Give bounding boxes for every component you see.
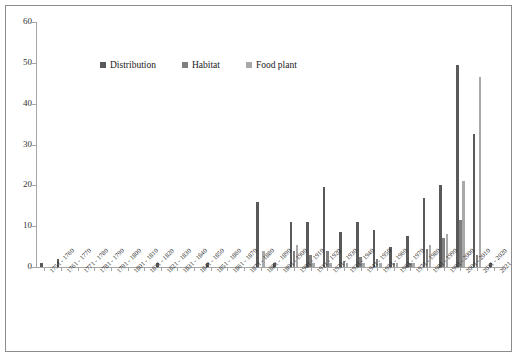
y-axis-tick-label: 0 [2, 262, 32, 271]
x-axis-tick-label: 1851 - 1860 [215, 269, 220, 274]
x-axis-tick-label: 1971 - 1980 [414, 269, 419, 274]
bar-group [40, 22, 49, 267]
bar-group [423, 22, 432, 267]
bar-group [456, 22, 465, 267]
bar-group [389, 22, 398, 267]
bar-group [73, 22, 82, 267]
x-axis-tick-label: 1931 - 1940 [348, 269, 353, 274]
y-axis-tick-label: 10 [2, 221, 32, 230]
x-axis-labels: 1751 - 17601761 - 17701771 - 17801781 - … [36, 269, 506, 355]
legend-label: Habitat [192, 60, 220, 70]
x-axis-tick-label: 1951 - 1960 [381, 269, 386, 274]
chart-legend: DistributionHabitatFood plant [100, 58, 370, 72]
bar-group [90, 22, 99, 267]
legend-swatch-icon [246, 62, 252, 68]
x-axis-tick-label: 1961 - 1970 [398, 269, 403, 274]
bar-group [439, 22, 448, 267]
x-axis-tick-label: 1841 - 1850 [198, 269, 203, 274]
x-axis-tick-label: 1941 - 1950 [365, 269, 370, 274]
x-axis-tick-label: 1821 - 1830 [165, 269, 170, 274]
x-axis-tick-label: 1981 - 1990 [431, 269, 436, 274]
x-axis-tick-label: 2001 - 2010 [464, 269, 469, 274]
y-axis-tick-label: 50 [2, 58, 32, 67]
y-axis-tick-label: 20 [2, 180, 32, 189]
x-axis-tick-label: 1901 - 1910 [298, 269, 303, 274]
x-axis-tick-label: 1911 - 1920 [315, 269, 320, 274]
x-axis-tick-label: 1921 - 1930 [331, 269, 336, 274]
bar-group [373, 22, 382, 267]
x-axis-tick-label: 1811 - 1820 [148, 269, 153, 274]
x-axis-tick-label: 1881 - 1890 [265, 269, 270, 274]
bar-group [57, 22, 66, 267]
legend-item: Food plant [246, 60, 297, 70]
x-axis-tick-label: 1751 - 1760 [48, 269, 53, 274]
x-axis-tick-label: 2021 [498, 269, 503, 274]
x-axis-tick-label: 1991 - 2000 [448, 269, 453, 274]
x-axis-tick-label: 2011 - 2020 [481, 269, 486, 274]
bar-group [489, 22, 498, 267]
legend-label: Food plant [256, 60, 297, 70]
x-axis-tick-label: 1861 - 1870 [231, 269, 236, 274]
x-axis-tick-label: 1831 - 1840 [181, 269, 186, 274]
chart-figure: 0102030405060 1751 - 17601761 - 17701771… [0, 0, 518, 358]
x-axis-tick-label: 1761 - 1770 [65, 269, 70, 274]
bar-group [473, 22, 482, 267]
y-axis-labels: 0102030405060 [0, 0, 32, 358]
bar-group [406, 22, 415, 267]
y-axis-tick-label: 30 [2, 140, 32, 149]
y-axis-tick-label: 60 [2, 17, 32, 26]
x-axis-tick-label: 1771 - 1780 [82, 269, 87, 274]
bar [40, 263, 43, 267]
legend-swatch-icon [182, 62, 188, 68]
x-axis-tick-label: 1801 - 1810 [132, 269, 137, 274]
x-axis-tick-label: 1871 - 1880 [248, 269, 253, 274]
legend-item: Distribution [100, 60, 156, 70]
x-axis-tick-label: 1791 - 1800 [115, 269, 120, 274]
bar [479, 77, 482, 267]
legend-swatch-icon [100, 62, 106, 68]
x-axis-tick-label: 1781 - 1790 [98, 269, 103, 274]
x-axis-tick-label: 1891 - 1900 [281, 269, 286, 274]
legend-item: Habitat [182, 60, 220, 70]
bar [473, 134, 476, 267]
legend-label: Distribution [110, 60, 156, 70]
y-axis-tick-label: 40 [2, 99, 32, 108]
